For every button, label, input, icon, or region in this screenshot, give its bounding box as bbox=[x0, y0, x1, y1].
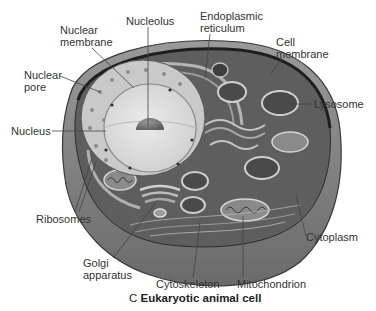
label-ribosomes: Ribosomes bbox=[36, 213, 91, 225]
label-cell-membrane-line1: Cell bbox=[276, 36, 329, 48]
label-nuclear-membrane: Nuclear membrane bbox=[60, 24, 113, 48]
label-mitochondrion: Mitochondrion bbox=[237, 278, 306, 290]
label-nuclear-membrane-line1: Nuclear bbox=[60, 24, 113, 36]
label-endoplasmic-reticulum: Endoplasmic reticulum bbox=[200, 10, 263, 34]
label-er-line1: Endoplasmic bbox=[200, 10, 263, 22]
label-nuclear-pore-line1: Nuclear bbox=[24, 69, 62, 81]
label-cell-membrane-line2: membrane bbox=[276, 48, 329, 60]
label-cytoplasm: Cytoplasm bbox=[306, 231, 358, 243]
label-nuclear-pore-line2: pore bbox=[24, 81, 62, 93]
label-golgi-line2: apparatus bbox=[83, 269, 132, 281]
label-nuclear-pore: Nuclear pore bbox=[24, 69, 62, 93]
label-er-line2: reticulum bbox=[200, 22, 263, 34]
label-lysosome: Lysosome bbox=[314, 98, 364, 110]
label-nucleolus: Nucleolus bbox=[126, 15, 174, 27]
label-golgi-apparatus: Golgi apparatus bbox=[83, 257, 132, 281]
label-golgi-line1: Golgi bbox=[83, 257, 132, 269]
label-nuclear-membrane-line2: membrane bbox=[60, 36, 113, 48]
caption-title: Eukaryotic animal cell bbox=[141, 292, 262, 304]
nucleus-illustration bbox=[81, 60, 205, 176]
label-nucleus: Nucleus bbox=[11, 125, 51, 137]
label-cell-membrane: Cell membrane bbox=[276, 36, 329, 60]
label-cytoskeleton: Cytoskeleton bbox=[156, 278, 220, 290]
caption-prefix: C bbox=[129, 292, 137, 304]
figure-caption: C Eukaryotic animal cell bbox=[129, 292, 261, 304]
